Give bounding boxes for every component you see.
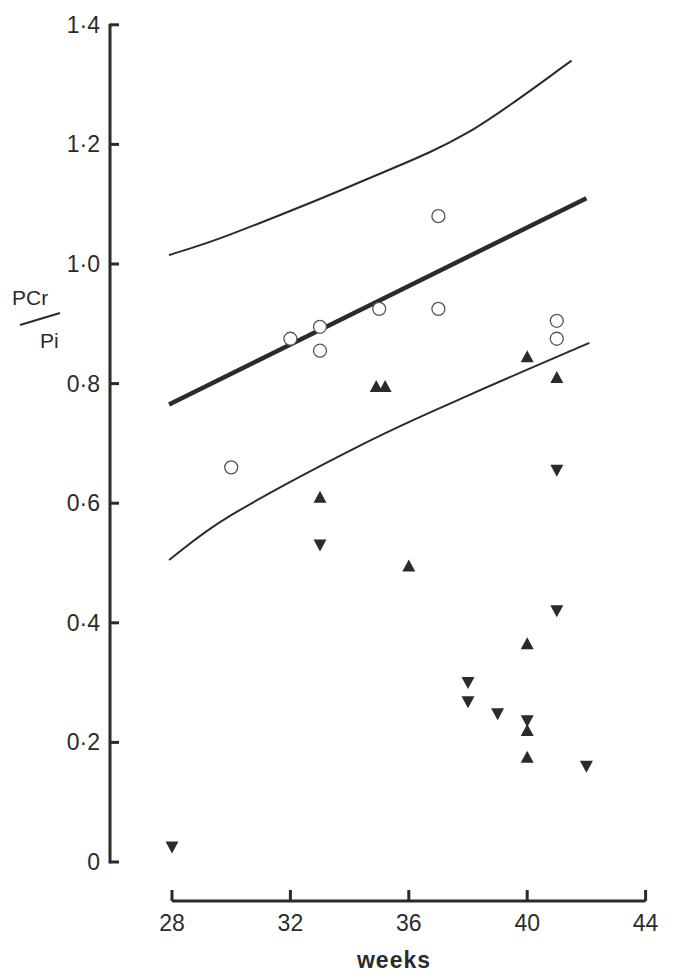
open-circle-marker — [550, 332, 563, 345]
open-circle-marker — [373, 302, 386, 315]
mean-regression-line — [169, 198, 586, 404]
down-triangle-marker — [580, 761, 593, 773]
down-triangle-marker — [491, 708, 504, 720]
down-triangle-marker — [550, 465, 563, 477]
up-triangle-marker — [521, 751, 534, 763]
x-axis: 2832364044 — [159, 890, 658, 936]
upper-bound — [169, 61, 572, 255]
y-tick-label: 1·2 — [67, 131, 100, 157]
x-tick-label: 36 — [396, 910, 422, 936]
scatter-chart: 00·20·40·60·81·01·21·4 2832364044 PCr Pi… — [0, 0, 674, 980]
up-triangle-marker — [314, 491, 327, 503]
x-tick-label: 44 — [633, 910, 659, 936]
down-triangle-marker — [550, 605, 563, 617]
fraction-bar — [20, 313, 60, 325]
open-circle-marker — [284, 332, 297, 345]
y-tick-label: 0·8 — [67, 371, 100, 397]
open-circle-marker — [225, 461, 238, 474]
y-axis-label-numerator: PCr — [12, 286, 48, 309]
up-triangle-marker — [550, 371, 563, 383]
open-circle-marker — [314, 320, 327, 333]
open-circle-marker — [432, 302, 445, 315]
down-triangle-marker — [314, 540, 327, 552]
down-triangle-marker — [462, 677, 475, 689]
down-triangle-marker — [521, 715, 534, 727]
x-tick-label: 40 — [514, 910, 540, 936]
down-triangle-marker — [462, 696, 475, 708]
y-axis: 00·20·40·60·81·01·21·4 — [67, 12, 119, 875]
y-tick-label: 0·6 — [67, 490, 100, 516]
x-axis-title: weeks — [356, 947, 431, 973]
up-triangle-marker — [521, 637, 534, 649]
x-tick-label: 32 — [278, 910, 304, 936]
open-circle-marker — [550, 314, 563, 327]
y-axis-title: PCr Pi — [12, 286, 60, 352]
y-tick-label: 0·2 — [67, 729, 100, 755]
open-circle-marker — [314, 344, 327, 357]
open-circle-marker — [432, 210, 445, 223]
up-triangle-marker — [521, 350, 534, 362]
x-tick-label: 28 — [159, 910, 185, 936]
y-tick-label: 0 — [87, 849, 100, 875]
data-points — [166, 210, 593, 854]
y-axis-label-denominator: Pi — [40, 329, 59, 352]
up-triangle-marker — [379, 380, 392, 392]
y-tick-label: 1·4 — [67, 12, 100, 38]
down-triangle-marker — [166, 842, 179, 854]
up-triangle-marker — [402, 559, 415, 571]
y-tick-label: 1·0 — [67, 251, 100, 277]
y-tick-label: 0·4 — [67, 610, 100, 636]
